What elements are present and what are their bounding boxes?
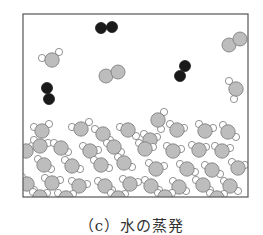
oxygen-atom [149,162,163,176]
oxygen-atom [74,122,88,136]
oxygen-atom [180,162,194,176]
oxygen-atom [117,156,131,170]
oxygen-atom [111,191,125,205]
oxygen-atom [33,139,47,153]
oxygen-atom [107,140,121,154]
oxygen-atom [121,123,135,137]
nitrogen-atom [42,83,53,94]
oxygen-atom [123,177,137,191]
nitrogen-atom [107,22,118,33]
oxygen-atom [54,141,68,155]
figure-caption: （c）水の蒸発 [0,214,263,235]
nitrogen-atom [96,23,107,34]
oxygen-atom [215,144,229,158]
oxygen-atom [229,82,243,96]
oxygen-atom [231,161,245,175]
oxygen-atom [198,124,212,138]
hydrogen-atom [15,143,22,150]
oxygen-atom [45,176,59,190]
nitrogen-atom [44,94,55,105]
oxygen-atom [166,144,180,158]
oxygen-atom [83,144,97,158]
oxygen-atom [19,144,33,158]
oxygen-atom [233,32,247,46]
oxygen-atom [45,53,59,67]
oxygen-atom [192,143,206,157]
oxygen-atom [59,191,73,205]
oxygen-atom [205,163,219,177]
oxygen-atom [138,142,152,156]
molecules [15,22,248,206]
nitrogen-atom [175,71,186,82]
oxygen-atom [65,159,79,173]
evaporation-diagram [0,0,263,210]
oxygen-atom [170,123,184,137]
oxygen-atom [96,127,110,141]
oxygen-atom [35,124,49,138]
oxygen-atom [111,65,125,79]
oxygen-atom [37,158,51,172]
oxygen-atom [151,113,165,127]
oxygen-atom [210,191,224,205]
nitrogen-atom [180,61,191,72]
oxygen-atom [221,125,235,139]
oxygen-atom [94,158,108,172]
